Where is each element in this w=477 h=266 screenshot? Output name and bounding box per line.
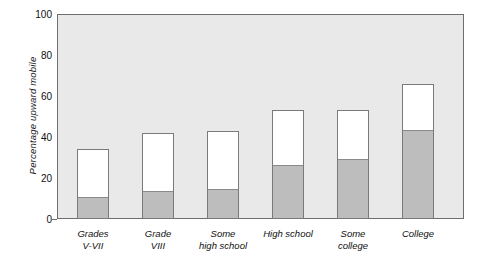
y-tick-label-80: 80 — [41, 50, 52, 61]
chart-figure: Percentage upward mobile 100 80 60 40 20… — [0, 0, 477, 266]
x-label-line1: Some — [341, 228, 366, 239]
y-tick-label-60: 60 — [41, 91, 52, 102]
y-tick-label-20: 20 — [41, 173, 52, 184]
x-label-line1: Some — [211, 228, 236, 239]
x-label-line1: Grade — [145, 228, 171, 239]
bar-high-school — [272, 110, 304, 219]
bar-fill-college — [403, 130, 433, 218]
bar-fill-high-school — [273, 165, 303, 218]
x-label-line1: College — [402, 228, 434, 239]
bar-some-college — [337, 110, 369, 219]
y-tick-mark-0 — [51, 219, 57, 220]
bar-fill-some-high-school — [208, 189, 238, 218]
bar-fill-some-college — [338, 159, 368, 218]
y-tick-label-40: 40 — [41, 132, 52, 143]
x-label-line2: college — [305, 240, 401, 252]
bar-some-high-school — [207, 131, 239, 219]
x-label-line2: high school — [175, 240, 271, 252]
bar-grades-v-vii — [77, 149, 109, 219]
y-axis-tick-labels: 100 80 60 40 20 0 — [0, 0, 52, 266]
x-label-line1: Grades — [77, 228, 108, 239]
x-category-label-college: College — [370, 228, 466, 240]
bar-grade-viii — [142, 133, 174, 219]
bar-fill-grade-viii — [143, 191, 173, 218]
y-tick-label-100: 100 — [35, 9, 52, 20]
bar-college — [402, 84, 434, 219]
bar-fill-grades-v-vii — [78, 197, 108, 218]
